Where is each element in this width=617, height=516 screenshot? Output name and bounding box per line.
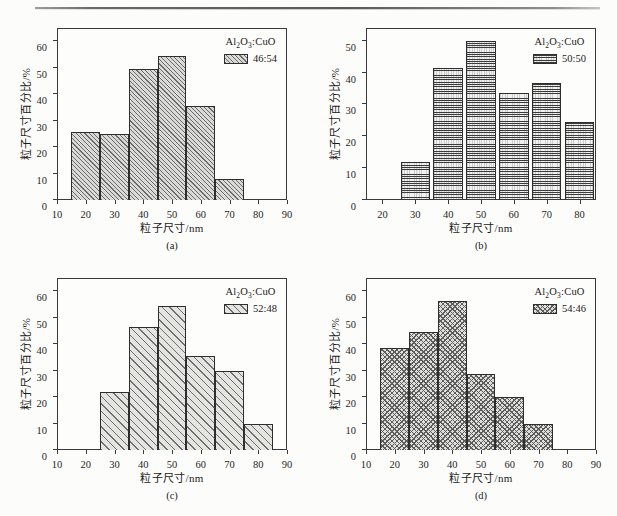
y-axis-tick-label: 30	[346, 105, 357, 116]
x-axis-tick	[514, 200, 515, 204]
bar	[401, 162, 431, 200]
x-axis-title: 粒子尺寸/nm	[366, 219, 596, 235]
y-axis-tick-label: 60	[37, 42, 48, 53]
y-axis-tick	[53, 173, 57, 174]
y-axis-tick-label: 0	[351, 451, 356, 462]
x-axis-tick	[481, 200, 482, 204]
panel-caption: (b)	[366, 240, 596, 251]
x-axis-title: 粒子尺寸/nm	[57, 469, 287, 485]
y-axis-title: 粒子尺寸百分比/%	[18, 28, 32, 200]
bar	[380, 348, 409, 450]
y-axis-tick	[53, 290, 57, 291]
y-axis-tick	[362, 343, 366, 344]
y-axis-tick-label: 20	[37, 398, 48, 409]
y-axis-tick-label: 0	[42, 451, 47, 462]
legend-title: Al2O3:CuO	[533, 285, 586, 300]
x-axis-tick	[510, 450, 511, 454]
legend-swatch-icon	[224, 54, 248, 64]
y-axis-tick	[53, 343, 57, 344]
x-axis-tick	[201, 450, 202, 454]
y-axis-tick	[362, 449, 366, 450]
x-axis-tick	[115, 200, 116, 204]
x-axis-tick	[287, 200, 288, 204]
y-axis-title-text: 粒子尺寸百分比/%	[17, 68, 33, 161]
y-axis-tick-label: 10	[346, 424, 357, 435]
x-axis-tick	[539, 450, 540, 454]
legend-entry: 50:50	[533, 52, 586, 65]
y-axis-tick-label: 40	[346, 73, 357, 84]
y-axis-tick	[53, 120, 57, 121]
y-axis-title-text: 粒子尺寸百分比/%	[17, 318, 33, 411]
y-axis-tick-label: 0	[351, 201, 356, 212]
x-axis-tick	[143, 450, 144, 454]
legend-ratio-label: 46:54	[253, 52, 277, 65]
legend: Al2O3:CuO50:50	[530, 34, 589, 67]
plot-area-a: 1020304050607080900102030405060Al2O3:CuO…	[57, 28, 287, 200]
page-top-rule-shadow	[35, 9, 600, 10]
y-axis-tick-label: 30	[37, 121, 48, 132]
chart-panel-b: 粒子尺寸百分比/%2030405060708001020304050Al2O3:…	[309, 12, 617, 268]
y-axis-tick	[53, 370, 57, 371]
bar	[129, 69, 158, 200]
x-axis-tick	[448, 200, 449, 204]
panel-caption: (c)	[57, 490, 287, 501]
y-axis-tick	[362, 370, 366, 371]
x-axis-tick	[547, 200, 548, 204]
y-axis-tick-label: 10	[37, 174, 48, 185]
y-axis-tick	[53, 423, 57, 424]
panel-caption: (d)	[366, 490, 596, 501]
bar	[186, 106, 215, 200]
bar	[409, 332, 438, 450]
bar	[71, 132, 100, 200]
y-axis-tick	[362, 72, 366, 73]
bar	[532, 83, 562, 200]
bar	[244, 424, 273, 450]
y-axis-tick-label: 50	[346, 318, 357, 329]
x-axis-tick	[172, 450, 173, 454]
x-axis-tick	[201, 200, 202, 204]
chart-panel-c: 粒子尺寸百分比/%1020304050607080900102030405060…	[0, 262, 308, 516]
y-axis-tick-label: 20	[346, 398, 357, 409]
y-axis-tick	[362, 396, 366, 397]
x-axis-tick	[481, 450, 482, 454]
y-axis-tick-label: 10	[346, 169, 357, 180]
bar	[433, 68, 463, 201]
x-axis-tick	[230, 200, 231, 204]
x-axis-tick	[57, 450, 58, 454]
bar	[466, 41, 496, 200]
bar	[158, 56, 187, 200]
bar	[158, 306, 187, 450]
bar	[524, 424, 553, 450]
y-axis-tick-label: 20	[37, 148, 48, 159]
legend-title: Al2O3:CuO	[224, 35, 277, 50]
x-axis-tick	[57, 200, 58, 204]
legend-ratio-label: 50:50	[562, 52, 586, 65]
x-axis-tick	[258, 200, 259, 204]
y-axis-title: 粒子尺寸百分比/%	[327, 278, 341, 450]
legend-title: Al2O3:CuO	[224, 285, 277, 300]
y-axis-title: 粒子尺寸百分比/%	[327, 28, 341, 200]
y-axis-tick-label: 40	[37, 345, 48, 356]
legend-title: Al2O3:CuO	[533, 35, 586, 50]
y-axis-tick	[53, 146, 57, 147]
y-axis-title-text: 粒子尺寸百分比/%	[326, 318, 342, 411]
legend-ratio-label: 54:46	[562, 302, 586, 315]
x-axis-tick	[86, 200, 87, 204]
y-axis-tick-label: 50	[346, 41, 357, 52]
panel-caption: (a)	[57, 240, 287, 251]
y-axis-tick	[53, 317, 57, 318]
y-axis-tick-label: 40	[346, 345, 357, 356]
bar	[565, 122, 595, 200]
x-axis-tick	[395, 450, 396, 454]
legend-swatch-icon	[533, 54, 557, 64]
bar	[129, 327, 158, 450]
y-axis-tick-label: 10	[37, 424, 48, 435]
y-axis-tick-label: 60	[346, 292, 357, 303]
legend-swatch-icon	[533, 304, 557, 314]
bar	[499, 93, 529, 200]
y-axis-tick	[53, 396, 57, 397]
x-axis-tick	[143, 200, 144, 204]
y-axis-tick-label: 50	[37, 68, 48, 79]
legend-entry: 52:48	[224, 302, 277, 315]
y-axis-tick	[53, 93, 57, 94]
